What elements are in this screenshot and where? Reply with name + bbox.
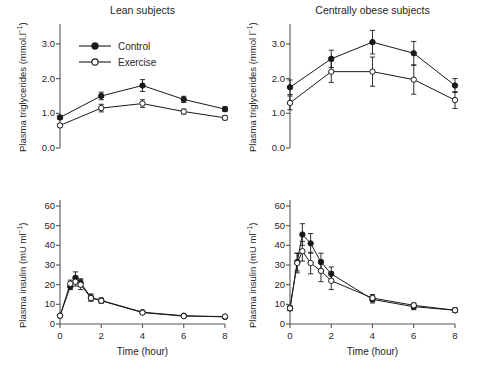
y-axis-label: Plasma insulin (mU ml−1) bbox=[246, 223, 258, 328]
data-point-control bbox=[287, 306, 292, 311]
data-point-control bbox=[411, 304, 416, 309]
series-line-control bbox=[290, 235, 455, 311]
series-line-exercise bbox=[290, 251, 455, 310]
data-point-control bbox=[452, 308, 457, 313]
y-tick-label: 50 bbox=[254, 220, 285, 231]
y-tick-label: 30 bbox=[254, 259, 285, 270]
x-tick-label: 4 bbox=[361, 330, 385, 341]
x-axis-label: Time (hour) bbox=[270, 346, 475, 357]
legend-item-exercise: Exercise bbox=[78, 54, 156, 70]
filled-circle-icon bbox=[78, 39, 112, 53]
legend: ControlExercise bbox=[78, 38, 156, 70]
data-point-exercise bbox=[452, 308, 457, 313]
data-point-exercise bbox=[318, 268, 323, 273]
data-point-exercise bbox=[295, 260, 300, 265]
data-point-exercise bbox=[300, 249, 305, 254]
x-tick-label: 0 bbox=[278, 330, 302, 341]
y-tick-label: 0 bbox=[254, 318, 285, 329]
data-point-exercise bbox=[308, 260, 313, 265]
legend-item-control: Control bbox=[78, 38, 156, 54]
data-point-exercise bbox=[370, 295, 375, 300]
data-point-control bbox=[370, 297, 375, 302]
panel-obese-insulin: 010203040506002468Time (hour)Plasma insu… bbox=[0, 0, 492, 373]
data-point-exercise bbox=[411, 303, 416, 308]
data-point-control bbox=[329, 271, 334, 276]
data-point-control bbox=[295, 259, 300, 264]
y-tick-label: 10 bbox=[254, 298, 285, 309]
legend-label: Control bbox=[118, 41, 150, 52]
data-point-control bbox=[308, 241, 313, 246]
y-tick-label: 20 bbox=[254, 279, 285, 290]
data-point-exercise bbox=[287, 306, 292, 311]
data-point-exercise bbox=[329, 278, 334, 283]
x-tick-label: 8 bbox=[443, 330, 467, 341]
data-point-control bbox=[300, 232, 305, 237]
data-point-control bbox=[318, 259, 323, 264]
x-tick-label: 2 bbox=[319, 330, 343, 341]
y-tick-label: 40 bbox=[254, 239, 285, 250]
open-circle-icon bbox=[78, 55, 112, 69]
x-tick-label: 6 bbox=[402, 330, 426, 341]
y-tick-label: 60 bbox=[254, 200, 285, 211]
legend-label: Exercise bbox=[118, 57, 156, 68]
figure-root: Lean subjects0.01.02.03.0Plasma triglyce… bbox=[0, 0, 492, 373]
